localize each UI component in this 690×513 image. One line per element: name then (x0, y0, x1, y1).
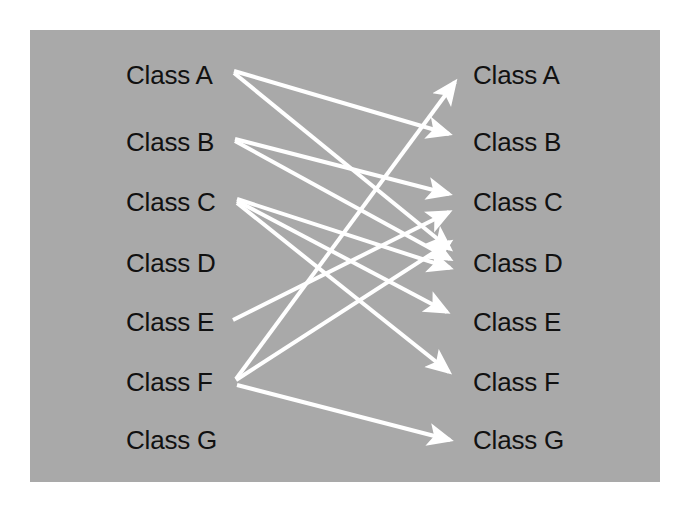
diagram-page: Class AClass BClass CClass DClass EClass… (0, 0, 690, 513)
class-node-l-a: Class A (126, 62, 213, 88)
class-node-r-g: Class G (473, 427, 564, 453)
class-node-l-b: Class B (126, 129, 214, 155)
class-node-r-d: Class D (473, 250, 563, 276)
class-node-l-c: Class C (126, 189, 216, 215)
class-node-r-b: Class B (473, 129, 561, 155)
class-node-l-d: Class D (126, 250, 216, 276)
class-node-r-e: Class E (473, 309, 561, 335)
class-node-l-g: Class G (126, 427, 217, 453)
diagram-panel (30, 30, 660, 482)
class-node-r-c: Class C (473, 189, 563, 215)
class-node-r-f: Class F (473, 369, 560, 395)
class-node-l-f: Class F (126, 369, 213, 395)
class-node-l-e: Class E (126, 309, 214, 335)
class-node-r-a: Class A (473, 62, 560, 88)
